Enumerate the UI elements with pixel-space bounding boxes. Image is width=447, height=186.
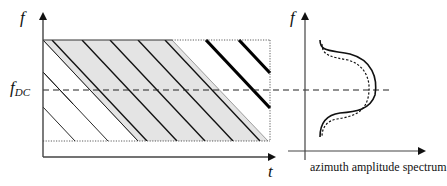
fdc-label-subscript: DC: [15, 86, 30, 98]
spectrum-f-axis-label: f: [290, 8, 295, 28]
fdc-label: fDC: [10, 78, 30, 98]
spectrum-axis-label: azimuth amplitude spectrum: [310, 160, 447, 175]
f-axis-label: f: [20, 8, 25, 28]
t-axis-label: t: [268, 162, 273, 182]
